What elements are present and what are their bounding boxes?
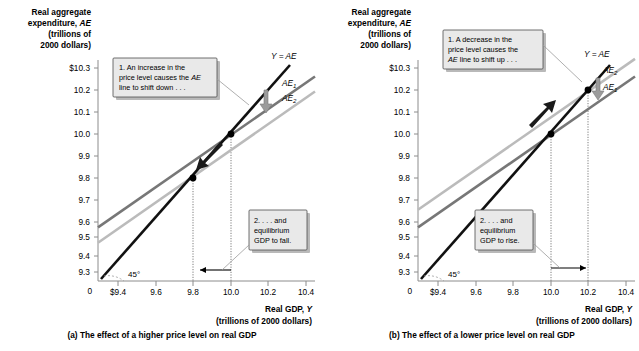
figure-container: Real aggregate expenditure, AE (trillion… [0,0,639,351]
panel-a-shift-arrow [260,90,272,113]
panel-b-callout-1: 1. A decrease in the price level causes … [443,30,582,82]
panel-b-ytick-9.3: 9.3 [398,267,410,277]
panel-a-xtick-10.4: 10.4 [298,287,315,297]
panel-a-yaxis-title-line-1: Real aggregate [32,7,92,17]
panel-b-x-ticks: $9.4 9.6 9.8 10.0 10.2 10.4 [430,281,635,297]
panel-b-gdp-change-arrow [551,265,586,271]
panel-a-ytick-9.4: 9.4 [78,251,90,261]
panel-b-xaxis-title-line-2: (trillions of 2000 dollars) [536,316,632,326]
panel-a-label-y-equals-ae: Y = AE [271,51,297,61]
panel-b-ytick-9.8: 9.8 [398,173,410,183]
panel-a-dot-initial-equilibrium [228,131,235,138]
panel-a-callout-1: 1. An increase in the price level causes… [113,58,249,105]
panel-b-ytick-10.2: 10.2 [394,85,411,95]
panel-b-chart: Real aggregate expenditure, AE (trillion… [320,0,639,351]
panel-b-label-ae-2: AE2 [602,65,618,76]
panel-a-xtick-9.6: 9.6 [150,287,162,297]
panel-a-xtick-10.2: 10.2 [260,287,277,297]
panel-b-xtick-10.2: 10.2 [580,287,597,297]
panel-a-xtick-9.8: 9.8 [187,287,199,297]
panel-b-xtick-9.4: $9.4 [430,287,447,297]
panel-b-ytick-9.9: 9.9 [398,151,410,161]
panel-b-xtick-10.0: 10.0 [543,287,560,297]
panel-a-callout-2: 2. . . . and equilibrium GDP to fall. [222,210,310,270]
panel-a-label-ae-1: AE1 [281,78,296,89]
panel-a-callout-1-line-1: 1. An increase in the [119,63,185,72]
panel-b-xtick-9.8: 9.8 [507,287,519,297]
panel-b-xtick-9.6: 9.6 [470,287,482,297]
panel-a-caption: (a) The effect of a higher price level o… [67,330,256,340]
panel-b-callout-2-line-2: equilibrium [480,226,515,235]
panel-b-callout-1-line-3: AE line to shift up . . . [447,55,517,64]
panel-a-ytick-10.2: 10.2 [74,85,91,95]
panel-a-xtick-10.0: 10.0 [223,287,240,297]
panel-b-callout-1-line-1: 1. A decrease in the [448,35,512,44]
panel-a-callout-2-line-2: equilibrium [254,226,289,235]
panel-b-ytick-10.3: $10.3 [389,63,410,73]
panel-a-callout-1-line-2: price level causes the AE [119,73,201,82]
panel-a-gdp-change-arrow [200,267,231,273]
panel-b-callout-2-line-3: GDP to rise. [480,236,520,245]
panel-b-ytick-9.4: 9.4 [398,251,410,261]
panel-a-callout-1-line-3: line to shift down . . . [119,83,186,92]
panel-b-origin-label: 0 [407,286,412,296]
panel-b-caption: (b) The effect of a lower price level on… [389,330,575,340]
panel-a-ytick-9.5: 9.5 [78,232,90,242]
panel-b-callout-2: 2. . . . and equilibrium GDP to rise. [475,210,560,268]
panel-a-ytick-9.9: 9.9 [78,151,90,161]
panel-b-ytick-9.6: 9.6 [398,217,410,227]
panel-a-ytick-9.3: 9.3 [78,267,90,277]
panel-b-ytick-9.7: 9.7 [398,195,410,205]
panel-b-ytick-10.1: 10.1 [394,107,411,117]
panel-a-yaxis-title-line-2: expenditure, AE [28,18,92,28]
panel-a-xtick-9.4: $9.4 [110,287,127,297]
panel-b-dot-initial-equilibrium [548,131,555,138]
panel-b-yaxis-title-line-2: expenditure, AE [348,18,412,28]
panel-b-yaxis-title-line-4: 2000 dollars) [360,40,411,50]
panel-a-y-ticks: $10.3 10.2 10.1 10.0 9.9 9.8 9.7 9.6 9.5… [69,63,98,277]
panel-a-angle-label: 45° [128,270,140,279]
panel-b-ytick-10.0: 10.0 [394,129,411,139]
panel-a-callout-2-line-3: GDP to fall. [254,236,291,245]
panel-b-callout-1-line-2: price level causes the [448,45,518,54]
panel-b: Real aggregate expenditure, AE (trillion… [320,0,639,351]
panel-a-label-ae-2: AE2 [281,93,297,104]
panel-a-yaxis-title-line-4: 2000 dollars) [40,40,91,50]
panel-a-xaxis-title-line-2: (trillions of 2000 dollars) [216,316,312,326]
panel-a-dot-new-equilibrium [190,175,197,182]
panel-a-x-ticks: $9.4 9.6 9.8 10.0 10.2 10.4 [110,281,315,297]
panel-a-callout-1-leader [217,79,249,105]
panel-a-ytick-9.8: 9.8 [78,173,90,183]
panel-a-xaxis-title-line-1: Real GDP, Y [265,304,313,314]
panel-a-chart: Real aggregate expenditure, AE (trillion… [0,0,319,351]
panel-b-label-y-equals-ae: Y = AE [584,49,610,59]
panel-a-ytick-9.6: 9.6 [78,217,90,227]
panel-b-xaxis-title-line-1: Real GDP, Y [585,304,633,314]
panel-a-angle-arc [104,276,124,281]
panel-a-origin-label: 0 [87,286,92,296]
panel-b-label-ae-1: AE1 [602,82,617,93]
panel-b-angle-arc [424,276,444,281]
panel-a-callout-2-line-1: 2. . . . and [254,216,286,225]
panel-b-yaxis-title-line-3: (trillions of [368,29,411,39]
panel-b-xtick-10.4: 10.4 [618,287,635,297]
panel-a-ytick-10.1: 10.1 [74,107,91,117]
panel-a-ytick-10.0: 10.0 [74,129,91,139]
panel-b-ytick-9.5: 9.5 [398,232,410,242]
panel-b-callout-1-leader [543,45,582,82]
panel-b-y-ticks: $10.3 10.2 10.1 10.0 9.9 9.8 9.7 9.6 9.5… [389,63,418,277]
panel-a-ytick-9.7: 9.7 [78,195,90,205]
panel-b-callout-2-line-1: 2. . . . and [480,216,512,225]
panel-b-dot-new-equilibrium [585,87,592,94]
panel-b-callout-2-leader [533,243,560,268]
panel-a-callout-2-leader [222,245,249,270]
panel-b-yaxis-title-line-1: Real aggregate [352,7,412,17]
panel-b-line-ae-1 [418,77,635,228]
panel-a: Real aggregate expenditure, AE (trillion… [0,0,319,351]
panel-a-ytick-10.3: $10.3 [69,63,90,73]
panel-a-yaxis-title-line-3: (trillions of [48,29,91,39]
panel-b-angle-label: 45° [448,270,460,279]
